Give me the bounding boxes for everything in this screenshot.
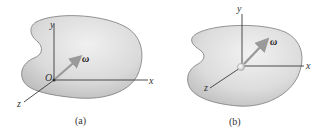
rigid-body-rotation-diagram: y x z O ω (a) y x z ω (b) — [0, 0, 329, 134]
ball-joint — [237, 63, 244, 70]
panel-b: y x z ω (b) — [188, 3, 311, 128]
y-axis-label: y — [236, 3, 242, 14]
x-axis-label: x — [148, 75, 154, 86]
z-axis-label: z — [203, 82, 208, 93]
caption-a: (a) — [75, 115, 86, 127]
omega-label: ω — [270, 36, 277, 47]
origin-point — [52, 78, 55, 81]
y-axis-label: y — [49, 19, 55, 30]
panel-a: y x z O ω (a) — [16, 16, 154, 127]
origin-label: O — [45, 72, 52, 83]
omega-label: ω — [82, 53, 89, 64]
caption-b: (b) — [229, 116, 241, 128]
x-axis-label: x — [305, 60, 311, 71]
z-axis-label: z — [16, 98, 21, 109]
